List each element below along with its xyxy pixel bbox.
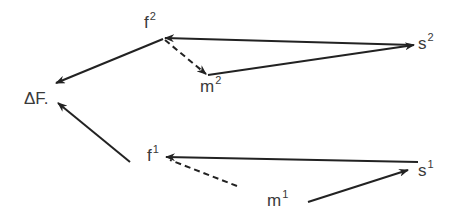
- arrow-f2-to-deltaF: [56, 39, 163, 83]
- arrow-m1-to-s1: [308, 170, 408, 202]
- label-m2-sup: 2: [215, 74, 221, 86]
- diagram-canvas: [0, 0, 459, 223]
- label-f2-sup: 2: [150, 10, 156, 22]
- label-m1-sup: 1: [282, 188, 288, 200]
- label-s2-sup: 2: [428, 31, 434, 43]
- arrow-s1-to-f1: [166, 157, 418, 162]
- label-m1-base: m: [267, 191, 281, 210]
- arrow-m2-to-s2: [208, 45, 414, 75]
- label-delta-f: ΔF.: [24, 90, 49, 107]
- label-f1: f1: [147, 147, 159, 164]
- label-f1-sup: 1: [153, 143, 159, 155]
- label-s1-sup: 1: [428, 158, 434, 170]
- label-s2-base: s: [418, 34, 427, 53]
- arrow-s2-to-f2: [165, 38, 413, 45]
- label-m2: m2: [200, 78, 221, 95]
- label-f1-base: f: [147, 146, 152, 165]
- label-s1-base: s: [418, 161, 427, 180]
- dashed-line-to-f1: [170, 160, 237, 186]
- dashed-arrow-f2-to-m2: [165, 40, 206, 74]
- label-m2-base: m: [200, 77, 214, 96]
- label-f2-base: f: [144, 13, 149, 32]
- label-s1: s1: [418, 162, 434, 179]
- arrow-f1-to-deltaF: [58, 103, 130, 162]
- label-s2: s2: [418, 35, 434, 52]
- label-f2: f2: [144, 14, 156, 31]
- label-delta-f-text: ΔF.: [24, 89, 49, 108]
- label-m1: m1: [267, 192, 288, 209]
